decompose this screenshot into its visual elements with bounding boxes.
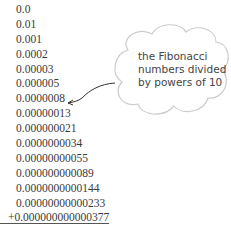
number-value: 0.0000008 <box>0 92 65 104</box>
number-row: 0.00000000000233 <box>0 196 130 211</box>
number-value: 0.0000000000144 <box>0 182 99 194</box>
number-value: 0.00000000000233 <box>0 197 105 209</box>
number-value: 0.001 <box>0 33 42 45</box>
number-row: 0.0000000034 <box>0 136 130 151</box>
number-row: 0.0000000000144 <box>0 181 130 196</box>
arrow-icon <box>60 80 120 110</box>
annotation-line: numbers divided <box>138 63 228 76</box>
annotation-cloud: the Fibonacci numbers divided by powers … <box>108 20 231 120</box>
number-value: +0.000000000000377 <box>0 211 109 224</box>
number-row: 0.000000000089 <box>0 166 130 181</box>
number-value: 0.0002 <box>0 48 48 60</box>
annotation-line: by powers of 10 <box>138 76 228 89</box>
number-row-last: +0.000000000000377 <box>0 210 130 225</box>
number-value: 0.000000021 <box>0 122 76 134</box>
number-value: 0.000005 <box>0 77 59 89</box>
number-value: 0.0 <box>0 3 30 15</box>
number-row: 0.00000000055 <box>0 151 130 166</box>
annotation-line: the Fibonacci <box>138 50 228 63</box>
number-value: 0.01 <box>0 18 36 30</box>
number-value: 0.00000000055 <box>0 152 88 164</box>
number-value: 0.000000000089 <box>0 167 94 179</box>
number-value: 0.00003 <box>0 63 53 75</box>
number-value: 0.0000000034 <box>0 137 82 149</box>
number-row: 0.000000021 <box>0 121 130 136</box>
number-row: 0.0 <box>0 2 130 17</box>
annotation-text: the Fibonacci numbers divided by powers … <box>138 50 228 89</box>
